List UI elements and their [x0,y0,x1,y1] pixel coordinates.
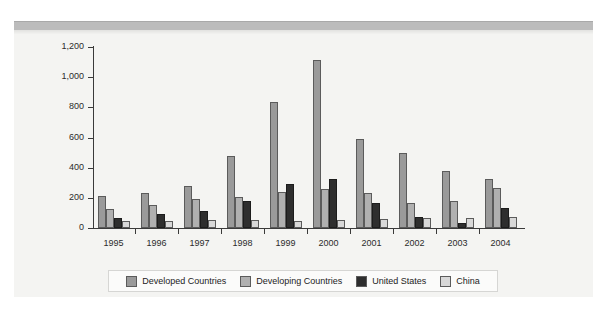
bar[interactable] [407,203,415,228]
bar-group [313,47,345,228]
bar[interactable] [235,197,243,228]
legend-item[interactable]: Developed Countries [126,276,226,287]
bar[interactable] [286,184,294,228]
bar[interactable] [458,223,466,228]
legend-item-label: United States [372,276,426,286]
bar[interactable] [372,203,380,228]
legend-swatch-icon [440,276,451,287]
bar[interactable] [466,218,474,228]
y-axis-tick-label: 800 [40,101,84,111]
chart-page: 1,2001,0008006004002000 1995199619971998… [0,0,607,320]
legend-swatch-icon [126,276,137,287]
legend-item[interactable]: United States [356,276,426,287]
bar-group [442,47,474,228]
x-axis-tick [178,229,179,234]
x-axis-tick [393,229,394,234]
bar[interactable] [501,208,509,228]
bar[interactable] [380,219,388,228]
legend-swatch-icon [240,276,251,287]
bar[interactable] [157,214,165,228]
y-axis-tick [88,228,93,229]
x-axis-tick [264,229,265,234]
y-axis-tick-label: 600 [40,132,84,142]
y-axis-tick-label: 0 [40,222,84,232]
bar-group [356,47,388,228]
y-axis-tick [88,107,93,108]
bar[interactable] [399,153,407,228]
bar[interactable] [165,221,173,228]
bar[interactable] [509,217,517,228]
y-axis-tick-label: 200 [40,192,84,202]
y-axis-tick-label: 1,000 [40,71,84,81]
bar-group [98,47,130,228]
bar-group [141,47,173,228]
y-axis-tick [88,138,93,139]
bar-group [399,47,431,228]
x-axis-tick [436,229,437,234]
bar[interactable] [356,139,364,228]
bar[interactable] [141,193,149,228]
bars-layer [94,47,524,228]
x-axis-tick [307,229,308,234]
bar-group [270,47,302,228]
x-axis-tick [350,229,351,234]
legend-swatch-icon [356,276,367,287]
y-axis-tick-label: 1,200 [40,41,84,51]
bar[interactable] [423,218,431,228]
x-axis-line [93,228,525,229]
legend-item[interactable]: China [440,276,480,287]
bar[interactable] [442,171,450,228]
bar[interactable] [329,179,337,228]
bar[interactable] [114,218,122,228]
y-axis-tick [88,77,93,78]
y-axis-tick [88,47,93,48]
y-axis-tick [88,198,93,199]
bar[interactable] [337,220,345,228]
bar[interactable] [192,199,200,228]
x-axis-tick-label: 2004 [475,238,527,248]
bar-group [184,47,216,228]
bar[interactable] [364,193,372,228]
bar[interactable] [493,188,501,228]
bar[interactable] [251,220,259,228]
bar[interactable] [227,156,235,228]
bar-group [485,47,517,228]
bar[interactable] [450,201,458,228]
bar[interactable] [122,221,130,228]
bar[interactable] [278,192,286,228]
x-axis-tick [135,229,136,234]
y-axis-tick [88,168,93,169]
bar[interactable] [149,205,157,228]
bar[interactable] [294,221,302,228]
bar[interactable] [106,209,114,228]
legend-item-label: Developed Countries [142,276,226,286]
bar[interactable] [184,186,192,228]
bar[interactable] [313,60,321,228]
chart-legend: Developed Countries Developing Countries… [108,270,498,292]
bar[interactable] [415,217,423,228]
bar[interactable] [270,102,278,228]
y-axis-tick-label: 400 [40,162,84,172]
legend-item-label: Developing Countries [256,276,342,286]
bar[interactable] [208,220,216,228]
bar-group [227,47,259,228]
bar[interactable] [200,211,208,228]
legend-item[interactable]: Developing Countries [240,276,342,287]
bar[interactable] [321,189,329,228]
legend-item-label: China [456,276,480,286]
x-axis-tick [221,229,222,234]
bar[interactable] [98,196,106,228]
x-axis-tick [479,229,480,234]
bar[interactable] [485,179,493,228]
bar[interactable] [243,201,251,228]
